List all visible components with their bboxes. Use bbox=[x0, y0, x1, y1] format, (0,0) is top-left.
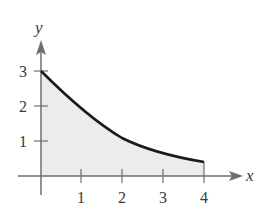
x-tick-label-3: 3 bbox=[159, 189, 167, 206]
y-tick-label-2: 2 bbox=[19, 98, 27, 115]
x-axis-label: x bbox=[245, 166, 254, 185]
x-tick-label-2: 2 bbox=[118, 189, 126, 206]
x-tick-label-4: 4 bbox=[200, 189, 208, 206]
x-tick-label-1: 1 bbox=[77, 189, 85, 206]
shaded-area bbox=[41, 71, 204, 176]
chart: 1 2 3 4 1 2 3 x y bbox=[0, 0, 255, 214]
y-tick-label-3: 3 bbox=[19, 63, 27, 80]
y-tick-label-1: 1 bbox=[19, 133, 27, 150]
y-axis-label: y bbox=[33, 18, 43, 37]
